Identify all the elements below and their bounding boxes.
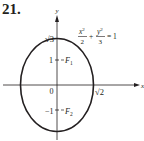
svg-text:2: 2 xyxy=(81,38,85,46)
ellipse-diagram: x y √3 1 F1 0 √2 −1 F2 x2 2 + y2 3 = 1 xyxy=(0,0,144,141)
x-axis-label: x xyxy=(140,82,144,90)
y-axis-label: y xyxy=(55,7,60,15)
origin-label: 0 xyxy=(50,87,54,96)
svg-text:√3: √3 xyxy=(45,34,54,44)
svg-text:= 1: = 1 xyxy=(107,32,117,41)
focus2-label: F2 xyxy=(64,107,73,117)
semi-major-label: √3 xyxy=(45,34,54,44)
svg-text:y2: y2 xyxy=(96,27,103,36)
focus1-label: F1 xyxy=(64,56,73,66)
x-axis-arrow-icon xyxy=(134,83,140,87)
focus2-tick-label: −1 xyxy=(45,107,54,116)
svg-text:3: 3 xyxy=(99,38,103,46)
svg-text:x2: x2 xyxy=(78,27,85,36)
focus1-tick-label: 1 xyxy=(49,56,53,65)
ellipse-equation: x2 2 + y2 3 = 1 xyxy=(78,27,117,46)
semi-minor-label: √2 xyxy=(95,87,104,97)
svg-text:+: + xyxy=(89,32,93,41)
y-axis-arrow-icon xyxy=(55,15,59,22)
